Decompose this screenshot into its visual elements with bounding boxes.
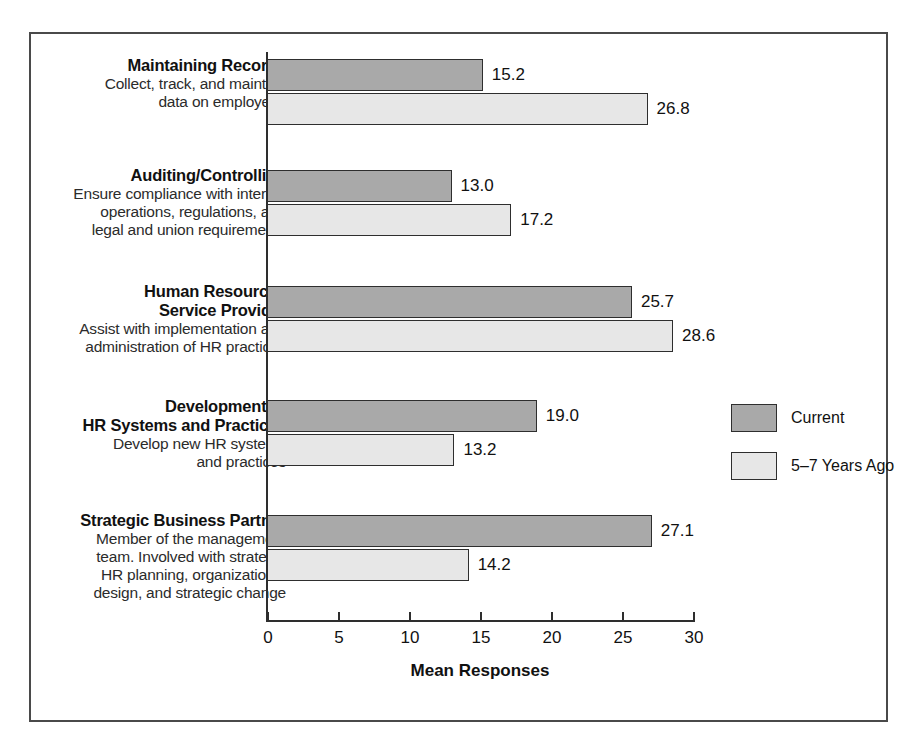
- chart-frame: Maintaining Records Collect, track, and …: [29, 32, 888, 722]
- category-label-hr-service-provider: Human Resources Service Provider Assist …: [0, 282, 286, 356]
- x-axis-tick-label: 15: [461, 628, 501, 648]
- legend-item-current[interactable]: Current: [731, 404, 894, 432]
- category-description-line: data on employees: [0, 93, 286, 111]
- category-title: HR Systems and Practices: [0, 416, 286, 435]
- x-axis-tick-label: 5: [319, 628, 359, 648]
- x-axis-tick-label: 0: [248, 628, 288, 648]
- x-axis-tick-label: 20: [532, 628, 572, 648]
- bar-past-strategic-business-partner[interactable]: [267, 549, 469, 581]
- x-axis-title: Mean Responses: [267, 661, 693, 681]
- bar-value-past-development-hr-systems: 13.2: [463, 434, 496, 466]
- x-axis-tick-label: 30: [674, 628, 714, 648]
- legend-swatch-past: [731, 452, 777, 480]
- bar-past-hr-service-provider[interactable]: [267, 320, 673, 352]
- bar-value-current-maintaining-records: 15.2: [492, 59, 525, 91]
- category-description-line: legal and union requirements: [0, 221, 286, 239]
- legend: Current 5–7 Years Ago: [731, 404, 894, 500]
- x-axis-tick: [338, 612, 340, 622]
- x-axis-tick-label: 10: [390, 628, 430, 648]
- category-title: Auditing/Controlling: [0, 166, 286, 185]
- category-label-auditing-controlling: Auditing/Controlling Ensure compliance w…: [0, 166, 286, 239]
- category-description-line: team. Involved with strategic: [0, 548, 286, 566]
- bar-current-auditing-controlling[interactable]: [267, 170, 452, 202]
- bar-past-development-hr-systems[interactable]: [267, 434, 454, 466]
- category-label-maintaining-records: Maintaining Records Collect, track, and …: [0, 56, 286, 111]
- legend-label-past: 5–7 Years Ago: [791, 457, 894, 475]
- y-axis-line: [266, 52, 268, 622]
- bar-value-past-strategic-business-partner: 14.2: [478, 549, 511, 581]
- bar-value-current-auditing-controlling: 13.0: [461, 170, 494, 202]
- category-title: Service Provider: [0, 301, 286, 320]
- legend-item-past[interactable]: 5–7 Years Ago: [731, 452, 894, 480]
- category-label-development-hr-systems: Development of HR Systems and Practices …: [0, 397, 286, 471]
- x-axis-tick: [267, 612, 269, 622]
- category-description-line: Assist with implementation and: [0, 320, 286, 338]
- bar-current-strategic-business-partner[interactable]: [267, 515, 652, 547]
- bar-value-current-strategic-business-partner: 27.1: [661, 515, 694, 547]
- x-axis-tick: [480, 612, 482, 622]
- category-description-line: Develop new HR systems: [0, 435, 286, 453]
- category-description-line: and practices: [0, 453, 286, 471]
- category-title: Maintaining Records: [0, 56, 286, 75]
- category-title: Human Resources: [0, 282, 286, 301]
- legend-label-current: Current: [791, 409, 844, 427]
- bar-past-auditing-controlling[interactable]: [267, 204, 511, 236]
- bar-past-maintaining-records[interactable]: [267, 93, 648, 125]
- bar-value-past-hr-service-provider: 28.6: [682, 320, 715, 352]
- category-label-strategic-business-partner: Strategic Business Partner Member of the…: [0, 511, 286, 602]
- x-axis-tick: [409, 612, 411, 622]
- category-title: Development of: [0, 397, 286, 416]
- bar-current-development-hr-systems[interactable]: [267, 400, 537, 432]
- category-description-line: HR planning, organizational: [0, 566, 286, 584]
- bar-value-past-maintaining-records: 26.8: [657, 93, 690, 125]
- category-description-line: Member of the management: [0, 530, 286, 548]
- category-description-line: Collect, track, and maintain: [0, 75, 286, 93]
- category-description-line: administration of HR practices: [0, 338, 286, 356]
- x-axis-tick: [551, 612, 553, 622]
- bar-current-hr-service-provider[interactable]: [267, 286, 632, 318]
- category-description-line: operations, regulations, and: [0, 203, 286, 221]
- plot-area: Maintaining Records Collect, track, and …: [31, 34, 890, 724]
- x-axis-tick: [693, 612, 695, 622]
- bar-value-past-auditing-controlling: 17.2: [520, 204, 553, 236]
- category-description-line: design, and strategic change: [0, 584, 286, 602]
- bar-current-maintaining-records[interactable]: [267, 59, 483, 91]
- category-title: Strategic Business Partner: [0, 511, 286, 530]
- category-description-line: Ensure compliance with internal: [0, 185, 286, 203]
- x-axis-tick-label: 25: [603, 628, 643, 648]
- bar-value-current-development-hr-systems: 19.0: [546, 400, 579, 432]
- x-axis-tick: [622, 612, 624, 622]
- bar-value-current-hr-service-provider: 25.7: [641, 286, 674, 318]
- legend-swatch-current: [731, 404, 777, 432]
